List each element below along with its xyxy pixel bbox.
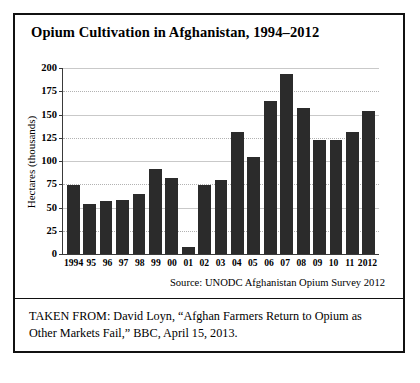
page-title: Opium Cultivation in Afghanistan, 1994–2… [31, 24, 319, 41]
x-axis-tick-label: 96 [99, 258, 115, 269]
x-axis-tick-label: 01 [180, 258, 196, 269]
x-axis-tick-label: 99 [148, 258, 164, 269]
y-axis-tick-label: 175 [41, 86, 57, 97]
x-axis-tick-label: 02 [196, 258, 212, 269]
y-axis-tick-label: 0 [52, 249, 57, 260]
x-axis-tick-label: 95 [83, 258, 99, 269]
bar [362, 111, 375, 254]
bar [116, 200, 129, 254]
y-axis-tick-label: 100 [41, 156, 57, 167]
source-note: Source: UNODC Afghanistan Opium Survey 2… [170, 277, 385, 288]
bar-slot [180, 68, 196, 254]
y-axis-title: Hectares (thousands) [25, 115, 37, 208]
bar-slot [131, 68, 147, 254]
bar-slot [114, 68, 130, 254]
y-axis-tick-label: 150 [41, 109, 57, 120]
x-axis-tick-label: 06 [261, 258, 277, 269]
x-axis-tick-label: 98 [132, 258, 148, 269]
figure-frame: Opium Cultivation in Afghanistan, 1994–2… [13, 13, 405, 353]
bar [198, 185, 211, 254]
bar [247, 157, 260, 254]
y-axis-tick-label: 25 [47, 226, 58, 237]
y-axis-tick-label: 200 [41, 63, 57, 74]
bar-slot [98, 68, 114, 254]
bar [133, 194, 146, 254]
y-axis-tick-label: 125 [41, 133, 57, 144]
bar [83, 204, 96, 254]
bar-series [63, 68, 379, 254]
bar [149, 169, 162, 254]
bar [165, 178, 178, 254]
bar-slot [196, 68, 212, 254]
caption-divider [15, 298, 403, 299]
caption-text: TAKEN FROM: David Loyn, “Afghan Farmers … [29, 308, 389, 343]
bar-slot [262, 68, 278, 254]
x-axis-tick-label: 97 [116, 258, 132, 269]
bar [67, 185, 80, 254]
bar [182, 247, 195, 254]
bar [231, 132, 244, 254]
bar-slot [229, 68, 245, 254]
bar-slot [164, 68, 180, 254]
bar [330, 140, 343, 254]
x-axis-tick-label: 00 [164, 258, 180, 269]
bar [100, 201, 113, 254]
bar-slot [81, 68, 97, 254]
bar-slot [147, 68, 163, 254]
x-axis-tick-label: 08 [293, 258, 309, 269]
x-axis-tick-label: 1994 [64, 258, 83, 269]
x-axis-tick-label: 07 [277, 258, 293, 269]
bar-slot [278, 68, 294, 254]
bar-slot [344, 68, 360, 254]
y-axis-tick-label: 75 [47, 179, 58, 190]
bar-slot [213, 68, 229, 254]
x-axis-tick-label: 09 [309, 258, 325, 269]
bar [313, 140, 326, 254]
y-axis-tick-label: 50 [47, 202, 58, 213]
bar-slot [361, 68, 377, 254]
bar-slot [295, 68, 311, 254]
x-axis-tick-label: 10 [326, 258, 342, 269]
plot-area: 0255075100125150175200 [62, 68, 379, 255]
bar [264, 101, 277, 254]
bar [346, 132, 359, 254]
plot-axes: 0255075100125150175200 [62, 68, 379, 255]
bar-slot [65, 68, 81, 254]
bar-slot [246, 68, 262, 254]
bar-slot [311, 68, 327, 254]
x-axis-tick-label: 2012 [358, 258, 377, 269]
bar-slot [328, 68, 344, 254]
bar [297, 108, 310, 254]
x-axis-tick-label: 11 [342, 258, 358, 269]
y-axis-tick [59, 254, 63, 255]
x-axis-labels: 1994959697989900010203040506070809101120… [62, 258, 379, 269]
x-axis-tick-label: 04 [229, 258, 245, 269]
bar [280, 74, 293, 254]
x-axis-tick-label: 03 [212, 258, 228, 269]
bar [215, 180, 228, 254]
y-axis-title-holder: Hectares (thousands) [31, 68, 32, 255]
x-axis-tick-label: 05 [245, 258, 261, 269]
